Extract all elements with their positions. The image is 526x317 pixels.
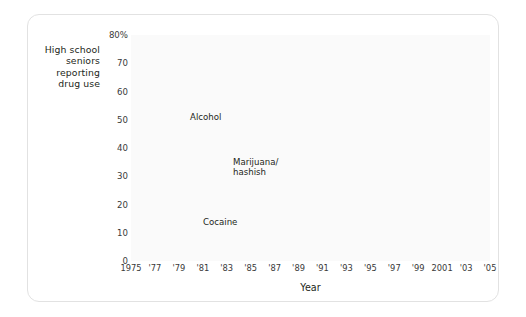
x-axis-tick-label: '93 [340, 263, 353, 273]
y-axis-tick-label: 30 [117, 171, 128, 181]
series-label-marijuana: Marijuana/ hashish [233, 157, 278, 177]
y-axis-tick-label: 80% [109, 30, 128, 40]
x-axis-tick-label: '79 [172, 263, 185, 273]
y-axis-caption-line-3: reporting [24, 67, 100, 78]
x-axis-title: Year [131, 282, 490, 293]
x-axis-tick-label: 2001 [432, 263, 453, 273]
x-axis-tick-label: '97 [388, 263, 401, 273]
x-axis-tick-labels: 1975'77'79'81'83'85'87'89'91'93'95'97'99… [131, 263, 490, 279]
y-axis-caption-line-1: High school [24, 44, 100, 55]
x-axis-tick-label: '05 [484, 263, 497, 273]
series-label-marijuana-line-2: hashish [233, 167, 266, 177]
y-axis-tick-label: 20 [117, 200, 128, 210]
x-axis-tick-label: '89 [292, 263, 305, 273]
x-axis-tick-label: 1975 [120, 263, 141, 273]
plot-area [131, 35, 490, 261]
x-axis-tick-label: '77 [149, 263, 162, 273]
y-axis-caption-line-2: seniors [24, 55, 100, 66]
y-axis-tick-labels: 01020304050607080% [95, 35, 128, 261]
y-axis-tick-label: 40 [117, 143, 128, 153]
plot-background [131, 35, 490, 261]
x-axis-tick-label: '81 [196, 263, 209, 273]
x-axis-tick-label: '03 [460, 263, 473, 273]
y-axis-tick-label: 50 [117, 115, 128, 125]
x-axis-tick-label: '99 [412, 263, 425, 273]
y-axis-tick-label: 70 [117, 58, 128, 68]
figure-page: High school seniors reporting drug use 0… [0, 0, 526, 317]
x-axis-tick-label: '85 [244, 263, 257, 273]
y-axis-caption: High school seniors reporting drug use [24, 44, 100, 90]
y-axis-tick-label: 60 [117, 87, 128, 97]
x-axis-tick-label: '83 [220, 263, 233, 273]
x-axis-tick-label: '95 [364, 263, 377, 273]
y-axis-caption-line-4: drug use [24, 78, 100, 89]
y-axis-tick-label: 10 [117, 228, 128, 238]
series-label-cocaine: Cocaine [203, 217, 237, 227]
x-axis-tick-label: '87 [268, 263, 281, 273]
series-label-alcohol: Alcohol [190, 112, 221, 122]
series-label-marijuana-line-1: Marijuana/ [233, 157, 278, 167]
x-axis-tick-label: '91 [316, 263, 329, 273]
